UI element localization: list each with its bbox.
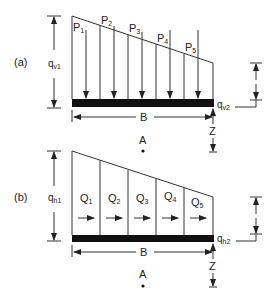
diagram-a-label: (a) [14,56,27,68]
dimension-b-a: B [72,110,212,123]
dimension-z-b: Z [209,244,217,287]
diagram-a-vertical-load: (a) qv1 P1 P2 P3 [14,14,262,153]
svg-text:P4: P4 [157,32,168,45]
dimension-qv2: qv2 [217,63,262,111]
qh1-subscript: h1 [54,197,62,204]
svg-text:P2: P2 [101,14,112,27]
diagram-a-load-labels: P1 P2 P3 P4 P5 [73,14,196,54]
depth-label-a: Z [209,125,216,137]
svg-text:qv1: qv1 [48,58,61,70]
width-label-b: B [140,246,147,258]
depth-label-b: Z [209,260,216,272]
load-p5: P [185,41,192,53]
diagram-b-label: (b) [14,191,27,203]
svg-text:Q3: Q3 [136,192,149,205]
footing-bar-a [72,99,214,107]
load-p3: P [129,22,136,34]
svg-text:qh1: qh1 [48,192,61,204]
svg-text:Q2: Q2 [108,192,121,205]
diagram-b-horizontal-load: (b) qh1 Q1 Q2 Q3 Q4 Q5 [14,151,262,288]
dimension-z-a: Z [209,109,217,152]
svg-text:P1: P1 [73,21,84,34]
diagram-a-load-arrows [86,26,198,98]
svg-text:qh2: qh2 [217,233,230,245]
svg-text:P3: P3 [129,22,140,35]
point-label-b: A [139,268,147,280]
dimension-b-b: B [72,245,212,258]
point-a-1: A [139,134,147,153]
dimension-qh2: qh2 [217,197,262,245]
qv1-subscript: v1 [54,63,62,70]
dimension-qh1: qh1 [47,151,61,241]
footing-bar-b [72,235,214,242]
svg-text:P5: P5 [185,41,196,54]
svg-text:Q1: Q1 [80,192,93,205]
svg-text:Q4: Q4 [164,190,177,203]
load-p2: P [101,14,108,26]
width-label-a: B [140,111,147,123]
dimension-qv1: qv1 [47,16,61,108]
point-label-a: A [139,134,147,146]
svg-text:Q5: Q5 [191,196,204,209]
qv2-subscript: v2 [223,104,231,111]
diagram-b-load-labels: Q1 Q2 Q3 Q4 Q5 [80,190,204,209]
qh2-subscript: h2 [223,238,231,245]
trapezoidal-load-diagrams: (a) qv1 P1 P2 P3 [0,0,277,302]
svg-text:qv2: qv2 [217,99,230,111]
load-p1: P [73,21,80,33]
load-p4: P [157,32,164,44]
point-a-2: A [139,268,147,288]
